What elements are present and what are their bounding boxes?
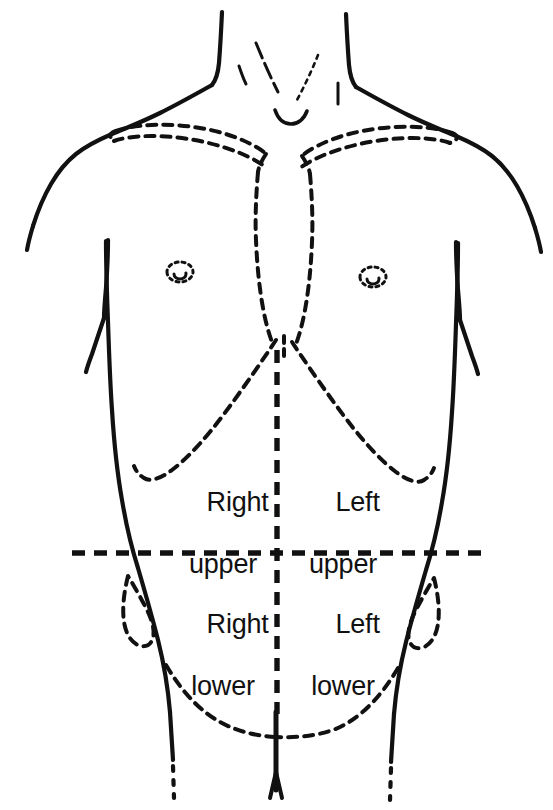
quadrant-label-left-upper-line2: upper (288, 549, 398, 580)
body-outline-group (27, 12, 541, 800)
neck-muscle-right (297, 55, 318, 100)
abdominal-quadrants-diagram: Right upper Left upper Right lower Left … (0, 0, 553, 810)
quadrant-label-right-upper-line1: Right (207, 487, 269, 517)
nipple-left-inner-icon (174, 269, 186, 279)
sternum-left-border-icon (256, 172, 272, 342)
left-shoulder-contour (33, 85, 212, 226)
quadrant-label-left-upper-line1: Left (335, 487, 379, 517)
right-inner-arm-branch (460, 320, 478, 374)
neck-left-edge (212, 12, 222, 85)
clavicle-right-cap-icon (450, 133, 457, 143)
quadrant-label-right-lower-line2: lower (168, 671, 278, 702)
quadrant-label-right-lower-line1: Right (207, 609, 269, 639)
neck-muscle-left (256, 43, 278, 92)
left-leg-edge-dash (173, 766, 174, 798)
iliac-crest-right-icon (408, 578, 438, 648)
suprasternal-notch (275, 110, 307, 124)
right-leg-edge-dash (390, 768, 391, 800)
right-arm-outer-edge (535, 228, 541, 252)
neck-right-edge (346, 14, 356, 87)
sternum-right-border-icon (296, 174, 312, 344)
nipple-right-inner-icon (367, 274, 379, 284)
quadrant-label-left-lower-line1: Left (335, 609, 379, 639)
quadrant-label-right-upper-line2: upper (168, 549, 278, 580)
iliac-crest-left-icon (123, 576, 153, 646)
right-shoulder-contour (356, 87, 535, 228)
quadrant-label-left-lower: Left lower (288, 578, 398, 764)
quadrant-label-left-lower-line2: lower (288, 671, 398, 702)
quadrant-label-right-lower: Right lower (168, 578, 278, 764)
left-inner-arm-branch (86, 318, 104, 372)
left-arm-outer-edge (27, 226, 33, 250)
neck-accent-left (239, 66, 246, 84)
clavicle-left-icon (116, 125, 266, 154)
